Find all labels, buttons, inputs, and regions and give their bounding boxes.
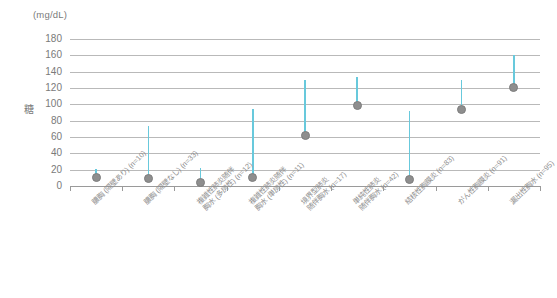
x-tick-2 [174, 186, 175, 191]
glucose-pleural-fluid-chart: (mg/dL) 糖 180160140120100806040200 膿胸 (隔… [0, 0, 557, 298]
data-point-marker[interactable] [301, 131, 310, 140]
x-tick-0 [70, 186, 71, 191]
x-tick-3 [227, 186, 228, 191]
x-tick-8 [488, 186, 489, 191]
x-tick-9 [540, 186, 541, 191]
data-point-marker[interactable] [144, 174, 153, 183]
x-tick-7 [436, 186, 437, 191]
data-point-marker[interactable] [457, 105, 466, 114]
x-tick-6 [383, 186, 384, 191]
x-tick-4 [279, 186, 280, 191]
x-tick-5 [331, 186, 332, 191]
x-axis-category-labels: 膿胸 (隔壁あり) (n=10)膿胸 (隔壁なし) (n=33)複雑性肺炎随伴 … [0, 192, 557, 298]
error-bar [304, 80, 306, 136]
error-bar [409, 111, 411, 180]
error-bar [148, 126, 150, 178]
data-point-marker[interactable] [248, 173, 257, 182]
x-tick-1 [122, 186, 123, 191]
data-point-marker[interactable] [353, 101, 362, 110]
data-point-marker[interactable] [92, 173, 101, 182]
data-point-marker[interactable] [196, 178, 205, 187]
data-point-marker[interactable] [509, 83, 518, 92]
data-point-marker[interactable] [405, 175, 414, 184]
